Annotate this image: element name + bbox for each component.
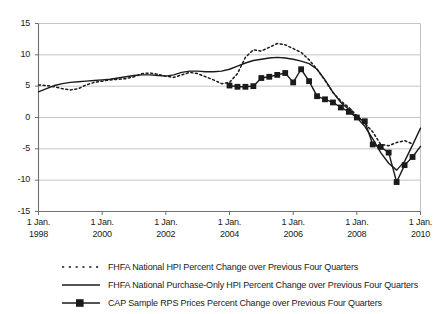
series-marker (346, 109, 352, 115)
y-axis-tick-label: -10 (4, 175, 30, 184)
x-tick-day: 1 Jan. (334, 216, 380, 228)
series-marker (266, 74, 272, 80)
x-axis-tick-label: 1 Jan.1998 (16, 216, 62, 240)
x-tick-year: 2004 (207, 228, 253, 240)
series-marker (314, 93, 320, 99)
x-tick-day: 1 Jan. (16, 216, 62, 228)
series-line-0 (39, 44, 413, 146)
y-axis-tick-label: 0 (4, 113, 30, 122)
x-axis-tick-label: 1 Jan.2004 (207, 216, 253, 240)
x-tick-year: 2008 (334, 228, 380, 240)
x-tick-year: 2000 (79, 228, 125, 240)
series-marker (370, 142, 376, 148)
series-marker (362, 118, 368, 124)
y-axis-tick-label: 15 (4, 19, 30, 28)
series-marker (235, 84, 241, 90)
dotted-line-swatch (60, 260, 104, 274)
legend-item-fhfa-purchase-only: FHFA National Purchase-Only HPI Percent … (60, 276, 420, 294)
x-tick-day: 1 Jan. (143, 216, 189, 228)
series-line-1 (39, 57, 421, 170)
series-marker (250, 83, 256, 89)
x-axis-tick-label: 1 Jan.2006 (270, 216, 316, 240)
legend-label-fhfa-national-hpi: FHFA National HPI Percent Change over Pr… (104, 262, 358, 272)
y-axis-tick-label: 10 (4, 50, 30, 59)
x-axis-tick-label: 1 Jan.2008 (334, 216, 380, 240)
x-tick-day: 1 Jan. (79, 216, 125, 228)
legend-item-fhfa-national-hpi: FHFA National HPI Percent Change over Pr… (60, 258, 420, 276)
x-axis-tick-label: 1 Jan.2002 (143, 216, 189, 240)
series-marker (378, 144, 384, 150)
x-tick-day: 1 Jan. (207, 216, 253, 228)
chart-legend: FHFA National HPI Percent Change over Pr… (60, 258, 420, 312)
series-marker (227, 83, 233, 89)
series-marker (306, 78, 312, 84)
series-marker (330, 100, 336, 106)
legend-item-cap-sample-rps: CAP Sample RPS Prices Percent Change ove… (60, 294, 420, 312)
y-axis-tick-label: 5 (4, 81, 30, 90)
series-marker (354, 115, 360, 121)
x-axis-tick-label: 1 Jan.2000 (79, 216, 125, 240)
solid-line-swatch (60, 278, 104, 292)
marker-line-swatch (60, 296, 104, 310)
y-axis-tick-label: -5 (4, 144, 30, 153)
series-marker (410, 154, 416, 160)
legend-label-cap-sample-rps: CAP Sample RPS Prices Percent Change ove… (104, 298, 382, 308)
gridlines-group (39, 55, 421, 180)
legend-label-fhfa-purchase-only: FHFA National Purchase-Only HPI Percent … (104, 280, 418, 290)
series-marker (322, 96, 328, 102)
x-tick-day: 1 Jan. (398, 216, 437, 228)
series-marker (386, 150, 392, 156)
x-tick-year: 2010 (398, 228, 437, 240)
series-marker (243, 84, 249, 90)
x-tick-day: 1 Jan. (270, 216, 316, 228)
x-tick-year: 2006 (270, 228, 316, 240)
x-axis-tick-label: 1 Jan.2010 (398, 216, 437, 240)
series-marker (394, 179, 400, 185)
series-marker (338, 105, 344, 111)
series-marker (274, 72, 280, 78)
series-marker (290, 80, 296, 86)
series-marker (282, 70, 288, 76)
series-marker (402, 162, 408, 168)
x-tick-year: 1998 (16, 228, 62, 240)
y-axis-tick-label: -15 (4, 207, 30, 216)
data-series-group (39, 44, 421, 185)
series-marker (298, 66, 304, 72)
x-tick-year: 2002 (143, 228, 189, 240)
series-marker (258, 75, 264, 81)
